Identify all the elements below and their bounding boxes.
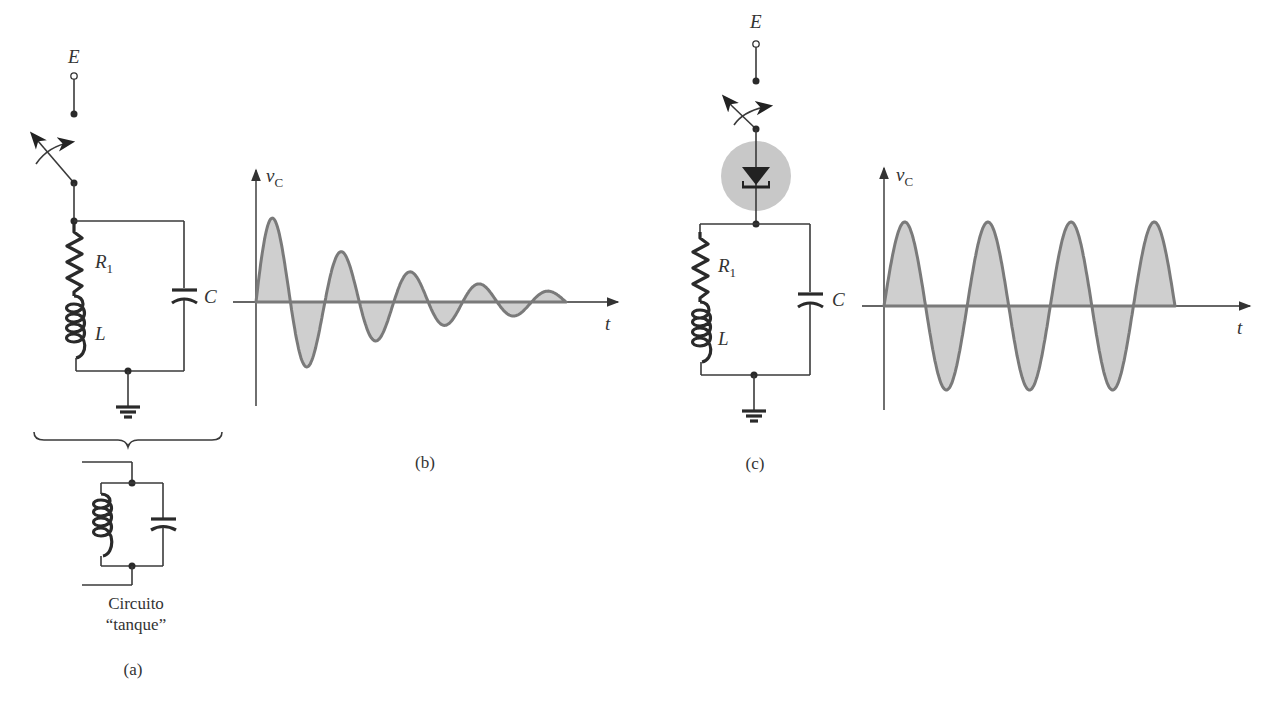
tank-caption-line2: “tanque” [106,615,166,634]
panel-b-chart: vC t (b) [233,165,618,472]
panel-b-caption: (b) [415,453,435,472]
capacitor-label-c: C [832,289,845,310]
panel-c-caption: (c) [746,454,765,473]
source-terminal [71,73,77,79]
x-axis-label: t [605,313,611,334]
inductor-label: L [94,323,106,344]
resistor-label-c: R1 [717,255,736,280]
ground-icon-c [742,411,766,421]
resistor-label: R1 [94,251,113,276]
tank-inductor-icon [94,494,112,556]
switch-icon-c [724,97,770,129]
tank-circuit [82,462,176,585]
panel-a-circuit: E C R1 L [32,46,222,679]
ground-icon [116,407,140,417]
panel-c-chart: vC t [862,164,1250,410]
y-axis-label: vC [266,165,283,190]
inductor-icon-c [693,302,711,362]
brace-icon [34,432,222,447]
x-axis-label-c: t [1237,317,1243,338]
tank-caption-line1: Circuito [108,594,164,613]
resistor-icon-c [693,232,708,302]
y-axis-label-c: vC [896,164,913,189]
inductor-label-c: L [717,328,729,349]
source-label-e-c: E [749,11,762,32]
panel-a-caption: (a) [124,660,143,679]
panel-c-circuit: E C R1 L [693,11,846,473]
source-label-e: E [67,46,80,67]
switch-icon [32,134,74,183]
figure-canvas: E C R1 L [0,0,1269,724]
switch-contact-top [71,111,78,118]
resistor-icon [67,224,82,296]
damped-waveform [256,218,566,367]
capacitor-label: C [204,286,217,307]
inductor-icon [67,296,85,358]
sustained-waveform [884,222,1175,390]
